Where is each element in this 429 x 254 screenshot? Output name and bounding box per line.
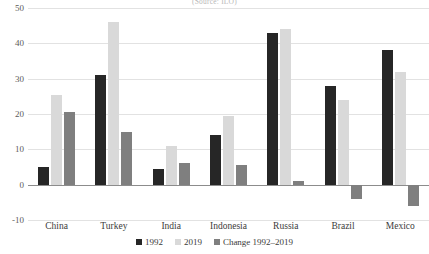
- bar: [64, 112, 75, 184]
- bar: [166, 146, 177, 185]
- legend-swatch-icon: [136, 239, 142, 245]
- bar: [51, 95, 62, 185]
- bar: [351, 185, 362, 199]
- plot-area: 50403020100-10: [0, 8, 429, 220]
- bar: [153, 169, 164, 185]
- y-axis-tick-label: 0: [20, 180, 25, 190]
- legend-item[interactable]: 2019: [175, 237, 202, 247]
- chart-legend: 19922019Change 1992–2019: [0, 237, 429, 247]
- y-axis-tick-label: 30: [15, 74, 24, 84]
- bar: [236, 165, 247, 184]
- y-axis-tick-label: 50: [15, 3, 24, 13]
- bar: [108, 22, 119, 185]
- x-axis-category-label: India: [143, 221, 200, 231]
- legend-label: Change 1992–2019: [223, 237, 293, 247]
- y-axis-tick-label: -10: [12, 215, 24, 225]
- chart-container: (Source: ILO) 50403020100-10 ChinaTurkey…: [0, 0, 429, 254]
- x-axis-category-label: Indonesia: [200, 221, 257, 231]
- bar: [280, 29, 291, 184]
- bar-group: [200, 8, 257, 220]
- x-axis-labels: ChinaTurkeyIndiaIndonesiaRussiaBrazilMex…: [28, 221, 429, 231]
- x-axis-category-label: Turkey: [85, 221, 142, 231]
- bar: [95, 75, 106, 185]
- legend-label: 1992: [145, 237, 163, 247]
- plot-canvas: [28, 8, 429, 220]
- bar-group: [85, 8, 142, 220]
- y-axis-tick-label: 10: [15, 144, 24, 154]
- bar: [179, 163, 190, 184]
- bar: [382, 50, 393, 184]
- chart-subtitle: (Source: ILO): [0, 0, 429, 6]
- y-axis: 50403020100-10: [0, 8, 28, 220]
- legend-item[interactable]: 1992: [136, 237, 163, 247]
- legend-label: 2019: [184, 237, 202, 247]
- x-axis-category-label: Brazil: [314, 221, 371, 231]
- bar-group: [257, 8, 314, 220]
- bar: [338, 100, 349, 185]
- bar: [408, 185, 419, 206]
- bar: [38, 167, 49, 185]
- bar: [267, 33, 278, 185]
- y-axis-tick-label: 20: [15, 109, 24, 119]
- legend-swatch-icon: [175, 239, 181, 245]
- legend-swatch-icon: [214, 239, 220, 245]
- x-axis-category-label: Russia: [257, 221, 314, 231]
- x-axis-category-label: Mexico: [372, 221, 429, 231]
- x-axis-category-label: China: [28, 221, 85, 231]
- bar-group: [143, 8, 200, 220]
- bar-group: [28, 8, 85, 220]
- bar-group: [314, 8, 371, 220]
- legend-item[interactable]: Change 1992–2019: [214, 237, 293, 247]
- y-axis-tick-label: 40: [15, 38, 24, 48]
- bar: [293, 181, 304, 185]
- bar: [395, 72, 406, 185]
- bar: [121, 132, 132, 185]
- bar-group: [372, 8, 429, 220]
- bar: [325, 86, 336, 185]
- bar-groups: [28, 8, 429, 220]
- bar: [210, 135, 221, 184]
- bar: [223, 116, 234, 185]
